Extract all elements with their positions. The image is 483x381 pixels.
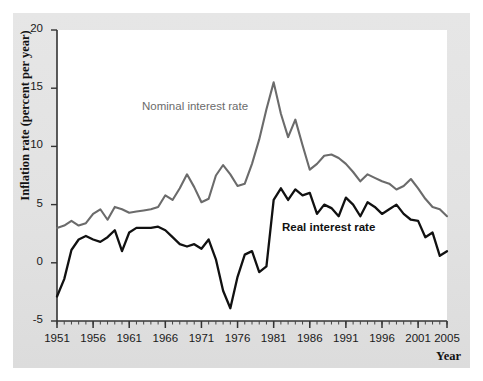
x-tick-label: 1961 bbox=[109, 332, 149, 344]
series-label-real: Real interest rate bbox=[282, 221, 375, 233]
x-tick-label: 1971 bbox=[181, 332, 221, 344]
x-tick-label: 1956 bbox=[73, 332, 113, 344]
y-tick-label: 20 bbox=[17, 22, 43, 34]
x-tick-label: 1986 bbox=[290, 332, 330, 344]
y-tick-label: 0 bbox=[17, 255, 43, 267]
x-tick-label: 1991 bbox=[326, 332, 366, 344]
y-tick-label: -5 bbox=[17, 313, 43, 325]
y-tick-label: 5 bbox=[17, 197, 43, 209]
x-tick-label: 2005 bbox=[427, 332, 467, 344]
x-tick-label: 1996 bbox=[362, 332, 402, 344]
series-label-nominal: Nominal interest rate bbox=[142, 100, 248, 112]
x-axis-title: Year bbox=[436, 349, 461, 364]
x-tick-label: 1951 bbox=[37, 332, 77, 344]
x-tick-label: 1966 bbox=[145, 332, 185, 344]
line-chart bbox=[0, 0, 483, 381]
y-tick-marks bbox=[51, 30, 57, 321]
y-tick-label: 15 bbox=[17, 80, 43, 92]
y-tick-label: 10 bbox=[17, 138, 43, 150]
figure-root: Inflation rate (percent per year) Year 2… bbox=[0, 0, 483, 381]
x-tick-label: 1981 bbox=[254, 332, 294, 344]
x-tick-label: 1976 bbox=[218, 332, 258, 344]
plot-rect bbox=[57, 30, 447, 321]
